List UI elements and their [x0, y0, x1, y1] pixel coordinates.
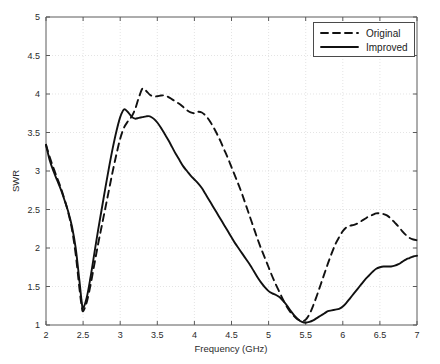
legend-label-improved: Improved [366, 42, 408, 53]
x-tick-label: 3.5 [151, 330, 164, 340]
x-tick-label: 7 [414, 330, 419, 340]
y-tick-label: 2 [35, 243, 40, 253]
y-tick-label: 3 [35, 166, 40, 176]
x-tick-label: 6.5 [374, 330, 387, 340]
x-tick-label: 4.5 [225, 330, 238, 340]
y-tick-label: 3.5 [27, 128, 40, 138]
legend-label-original: Original [366, 28, 400, 39]
y-axis-title: SWR [10, 170, 21, 192]
x-tick-label: 5 [266, 330, 271, 340]
x-tick-label: 6 [340, 330, 345, 340]
x-tick-label: 4 [192, 330, 197, 340]
y-tick-label: 1.5 [27, 282, 40, 292]
x-tick-label: 3 [118, 330, 123, 340]
y-tick-label: 4 [35, 89, 40, 99]
x-axis-title: Frequency (GHz) [195, 343, 268, 354]
chart-legend[interactable]: Original Improved [314, 23, 415, 57]
swr-line-chart: 22.533.544.555.566.57 11.522.533.544.55 … [0, 0, 440, 364]
y-tick-label: 2.5 [27, 205, 40, 215]
x-tick-label: 2.5 [77, 330, 90, 340]
y-tick-label: 1 [35, 320, 40, 330]
x-tick-label: 5.5 [299, 330, 312, 340]
y-tick-label: 4.5 [27, 51, 40, 61]
figure-canvas: 22.533.544.555.566.57 11.522.533.544.55 … [0, 0, 440, 364]
x-tick-label: 2 [43, 330, 48, 340]
y-tick-label: 5 [35, 12, 40, 22]
